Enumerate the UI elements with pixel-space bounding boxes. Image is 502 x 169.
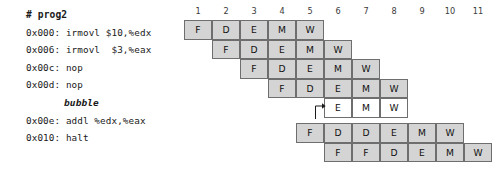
instruction-line: 0x010: halt: [26, 129, 186, 147]
pipeline-stage-cell: F: [240, 59, 268, 79]
instruction-line: 0x00c: nop: [26, 59, 186, 77]
pipeline-stage-cell: E: [324, 98, 352, 118]
cycle-number: 1: [184, 6, 212, 16]
pipeline-stage-cell: F: [352, 143, 380, 163]
pipeline-stage-cell: E: [240, 20, 268, 40]
pipeline-stage-cell: W: [324, 40, 352, 60]
pipeline-stage-cell: W: [380, 98, 408, 118]
pipeline-stage-cell: F: [268, 79, 296, 99]
pipeline-stage-cell: W: [352, 59, 380, 79]
pipeline-stage-cell: D: [352, 123, 380, 143]
instruction-line: 0x000: irmovl $10,%edx: [26, 24, 186, 42]
pipeline-stage-cell: D: [268, 59, 296, 79]
cycle-number: 11: [464, 6, 492, 16]
pipeline-stage-cell: D: [212, 20, 240, 40]
pipeline-stage-cell: F: [324, 143, 352, 163]
pipeline-stage-cell: M: [352, 98, 380, 118]
instruction-line: 0x006: irmovl $3,%eax: [26, 41, 186, 59]
cycle-number: 10: [436, 6, 464, 16]
instruction-line: 0x00d: nop: [26, 76, 186, 94]
bubble-label: bubble: [26, 94, 186, 112]
pipeline-stage-cell: D: [296, 79, 324, 99]
program-listing: # prog20x000: irmovl $10,%edx0x006: irmo…: [26, 6, 186, 147]
pipeline-stage-cell: W: [464, 143, 492, 163]
pipeline-stage-cell: D: [380, 143, 408, 163]
pipeline-stage-cell: D: [240, 40, 268, 60]
pipeline-stage-cell: E: [324, 79, 352, 99]
cycle-number: 5: [296, 6, 324, 16]
pipeline-stage-cell: E: [296, 59, 324, 79]
pipeline-stage-cell: M: [408, 123, 436, 143]
pipeline-stage-cell: M: [352, 79, 380, 99]
pipeline-stage-cell: M: [436, 143, 464, 163]
pipeline-stage-cell: M: [324, 59, 352, 79]
pipeline-stage-cell: W: [296, 20, 324, 40]
cycle-number: 6: [324, 6, 352, 16]
pipeline-stage-cell: F: [212, 40, 240, 60]
pipeline-stage-cell: E: [380, 123, 408, 143]
cycle-number: 8: [380, 6, 408, 16]
cycle-number: 2: [212, 6, 240, 16]
instruction-line: 0x00e: addl %edx,%eax: [26, 112, 186, 130]
pipeline-stage-cell: E: [408, 143, 436, 163]
cycle-number: 7: [352, 6, 380, 16]
cycle-number: 3: [240, 6, 268, 16]
program-title: # prog2: [26, 6, 186, 24]
cycle-number: 4: [268, 6, 296, 16]
pipeline-stage-cell: F: [184, 20, 212, 40]
pipeline-stage-cell: F: [296, 123, 324, 143]
pipeline-stage-cell: E: [268, 40, 296, 60]
pipeline-stage-cell: W: [380, 79, 408, 99]
pipeline-stage-cell: W: [436, 123, 464, 143]
pipeline-stage-cell: D: [324, 123, 352, 143]
pipeline-stage-cell: M: [296, 40, 324, 60]
pipeline-stage-cell: M: [268, 20, 296, 40]
cycle-number: 9: [408, 6, 436, 16]
